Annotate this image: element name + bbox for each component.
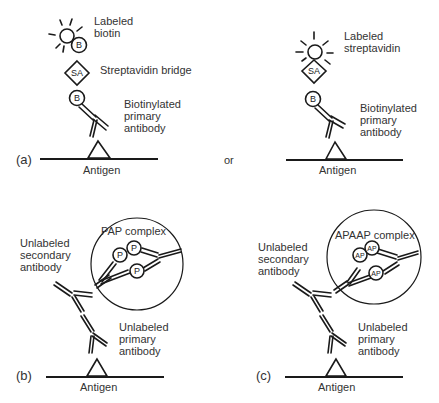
enzyme-glyph: P — [131, 243, 137, 253]
label-text: Unlabeled — [358, 321, 408, 333]
panel-label: (b) — [16, 368, 32, 383]
panel-a-streptavidin: SA Labeled streptavidin B Biotinylated p… — [286, 30, 417, 176]
peroxidase-circle-icon: P — [113, 248, 127, 262]
enzyme-glyph: P — [134, 266, 140, 276]
label-text: antibody — [20, 261, 62, 273]
antigen-label: Antigen — [318, 381, 355, 393]
panel-b-pap: PAP complex P P P — [16, 218, 183, 393]
enzyme-glyph: AP — [371, 270, 381, 277]
primary-antibody-icon — [315, 105, 345, 138]
label-text: primary — [360, 114, 397, 126]
antigen-triangle-icon — [326, 142, 346, 159]
streptavidin-glyph: SA — [308, 66, 320, 76]
streptavidin-diamond-icon: SA — [65, 61, 89, 85]
label-text: Biotinylated — [124, 98, 181, 110]
label-text: antibody — [358, 345, 400, 357]
label-text: Biotinylated — [360, 102, 417, 114]
secondary-antibody-icon — [293, 282, 331, 312]
complex-label: APAAP complex — [335, 229, 415, 241]
antigen-triangle-icon — [87, 359, 107, 376]
label-text: antibody — [124, 122, 166, 134]
biotin-glyph: B — [74, 93, 80, 103]
biotin-circle-icon: B — [72, 38, 87, 53]
label-text: Streptavidin bridge — [100, 64, 192, 76]
label-text: Unlabeled — [20, 237, 70, 249]
biotin-glyph: B — [76, 40, 82, 50]
immunostaining-diagram: B Labeled biotin SA Streptavidin bridge … — [0, 0, 439, 403]
enzyme-glyph: P — [117, 250, 123, 260]
primary-antibody-icon — [320, 315, 346, 353]
streptavidin-glyph: SA — [71, 68, 83, 78]
label-text: Labeled — [344, 30, 383, 42]
panel-a-biotin: B Labeled biotin SA Streptavidin bridge … — [16, 15, 192, 176]
primary-antibody-icon — [79, 104, 108, 137]
antigen-label: Antigen — [80, 381, 117, 393]
label-text: biotin — [94, 27, 120, 39]
label-text: Unlabeled — [119, 321, 169, 333]
antigen-triangle-icon — [326, 359, 346, 376]
streptavidin-diamond-icon: SA — [302, 60, 326, 83]
peroxidase-circle-icon: P — [127, 241, 141, 255]
label-text: secondary — [258, 253, 309, 265]
or-text: or — [224, 154, 234, 166]
label-text: secondary — [20, 249, 71, 261]
label-text: Unlabeled — [258, 241, 308, 253]
label-text: Labeled — [94, 15, 133, 27]
complex-label: PAP complex — [101, 225, 167, 237]
peroxidase-circle-icon: P — [130, 264, 144, 278]
enzyme-glyph: AP — [355, 252, 365, 259]
alkaline-phosphatase-circle-icon: AP — [365, 241, 379, 255]
antigen-label: Antigen — [319, 164, 356, 176]
enzyme-glyph: AP — [367, 245, 377, 252]
alkaline-phosphatase-circle-icon: AP — [369, 266, 383, 280]
antigen-label: Antigen — [83, 164, 120, 176]
label-sunburst-icon — [296, 32, 333, 64]
label-text: antibody — [360, 126, 402, 138]
panel-label: (c) — [256, 368, 271, 383]
label-text: antibody — [119, 345, 161, 357]
primary-antibody-icon — [81, 315, 107, 353]
antigen-triangle-icon — [88, 141, 110, 158]
secondary-antibody-icon — [54, 282, 92, 312]
label-text: primary — [119, 333, 156, 345]
label-text: antibody — [258, 265, 300, 277]
label-text: primary — [358, 333, 395, 345]
label-text: streptavidin — [344, 42, 400, 54]
biotin-glyph: B — [310, 94, 316, 104]
panel-c-apaap: APAAP complex AP AP AP — [256, 210, 421, 393]
panel-label: (a) — [16, 152, 32, 167]
label-text: primary — [124, 110, 161, 122]
